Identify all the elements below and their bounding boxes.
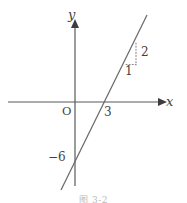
figure-caption: 图 3-2 <box>0 193 187 203</box>
x-axis-label: x <box>166 95 173 108</box>
y-axis-label: y <box>68 8 75 21</box>
slope-run-label: 1 <box>125 65 133 77</box>
slope-rise-label: 2 <box>141 46 149 58</box>
x-intercept-label: 3 <box>104 106 112 118</box>
line-graph-figure: y x O 3 −6 1 2 图 3-2 <box>0 0 187 203</box>
origin-label: O <box>62 106 71 118</box>
y-intercept-label: −6 <box>48 151 66 163</box>
coordinate-plot <box>0 0 187 203</box>
